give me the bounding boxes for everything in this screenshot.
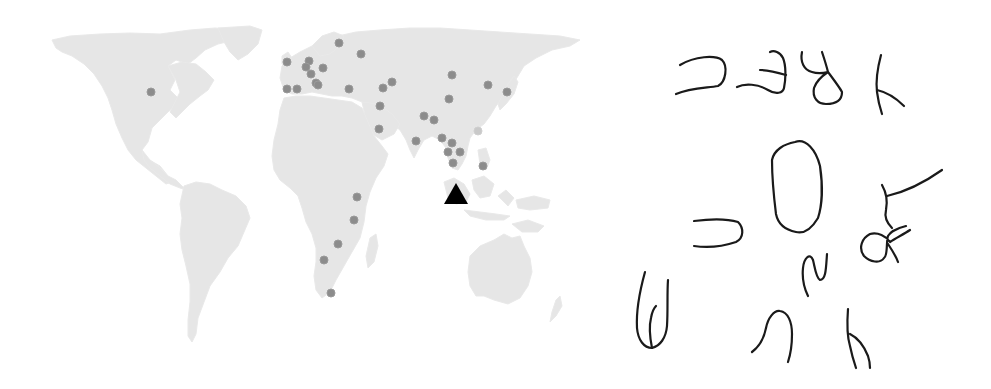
glyph-4-branch xyxy=(877,90,904,106)
sample-location-dot xyxy=(484,81,492,89)
landmass-north-america-east xyxy=(168,62,214,118)
sample-location-dot xyxy=(420,112,428,120)
glyph-6 xyxy=(882,185,892,228)
sample-location-dot xyxy=(283,58,291,66)
sample-location-dot xyxy=(448,139,456,147)
glyph-1 xyxy=(676,57,725,94)
sample-location-dot xyxy=(445,95,453,103)
sample-location-dot xyxy=(375,125,383,133)
glyph-12 xyxy=(847,309,856,368)
sample-location-dot xyxy=(302,63,310,71)
landmass-greenland xyxy=(218,26,262,60)
landmass-madagascar xyxy=(366,234,378,268)
sample-location-dot xyxy=(376,102,384,110)
glyph-2-bar xyxy=(760,70,786,75)
glyph-3 xyxy=(801,52,842,104)
sample-location-dot xyxy=(479,162,487,170)
sample-location-dot xyxy=(444,148,452,156)
sample-location-dot xyxy=(345,85,353,93)
glyph-10-inner xyxy=(650,306,656,348)
glyph-5 xyxy=(772,141,822,232)
sample-location-dot xyxy=(350,216,358,224)
sample-location-dot xyxy=(449,159,457,167)
glyph-12-branch xyxy=(850,334,870,368)
figure-canvas xyxy=(0,0,991,389)
sample-location-dot xyxy=(314,81,322,89)
sample-location-dot xyxy=(503,88,511,96)
sample-location-dot xyxy=(357,50,365,58)
glyph-8 xyxy=(861,226,910,262)
sample-location-dot xyxy=(334,240,342,248)
landmass-new-guinea xyxy=(512,220,544,232)
sample-location-dot xyxy=(438,134,446,142)
sample-location-dot xyxy=(307,70,315,78)
sample-location-dot xyxy=(327,289,335,297)
sample-location-dot xyxy=(335,39,343,47)
glyph-8-leg xyxy=(888,244,898,262)
sample-location-dot xyxy=(456,148,464,156)
sample-location-dot xyxy=(353,193,361,201)
sample-location-dot xyxy=(147,88,155,96)
sample-location-dot xyxy=(283,85,291,93)
sample-location-dot xyxy=(474,127,482,135)
sample-location-dot xyxy=(319,64,327,72)
landmass-new-zealand xyxy=(550,296,562,322)
sample-location-dot xyxy=(379,84,387,92)
glyph-7 xyxy=(694,220,742,247)
sample-location-dot xyxy=(388,78,396,86)
sample-location-dot xyxy=(293,85,301,93)
glyph-6-arm xyxy=(887,170,942,196)
sample-location-dot xyxy=(320,256,328,264)
sample-location-dot xyxy=(412,137,420,145)
glyph-11 xyxy=(752,311,792,362)
glyph-4 xyxy=(877,55,882,114)
figure xyxy=(0,0,991,389)
sample-location-dot xyxy=(430,116,438,124)
glyph-9 xyxy=(803,254,827,296)
sample-location-dot xyxy=(448,71,456,79)
handwritten-glyphs xyxy=(637,51,942,368)
landmass-south-america xyxy=(180,182,250,342)
landmass-australia xyxy=(468,234,532,304)
world-map xyxy=(52,26,580,342)
